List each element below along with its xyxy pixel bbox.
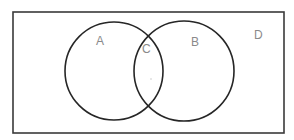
- universe-rectangle: [13, 12, 284, 133]
- label-region-b: B: [191, 35, 199, 49]
- label-region-intersection: C: [142, 42, 151, 56]
- label-region-outside: D: [254, 28, 263, 42]
- scan-speck: [150, 78, 152, 80]
- label-region-a: A: [96, 34, 104, 48]
- set-b-circle: [134, 21, 234, 121]
- venn-diagram: A C B D: [0, 0, 294, 140]
